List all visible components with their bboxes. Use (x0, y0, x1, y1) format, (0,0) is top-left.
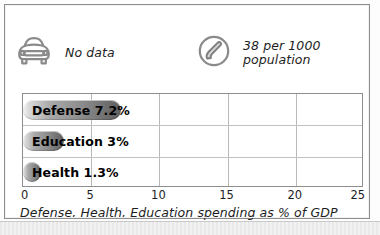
chart-caption: Defense, Health, Education spending as %… (20, 205, 365, 220)
plot-area: Defense 7.2%Education 3%Health 1.3% (22, 93, 363, 187)
bar-label-health: Health 1.3% (32, 165, 119, 180)
x-tick-label: 10 (151, 188, 166, 202)
bar-row: Education 3% (23, 125, 364, 156)
bar-row: Defense 7.2% (23, 94, 364, 125)
content-panel: No data 38 per 1000 population Defense 7… (4, 4, 370, 219)
indicator-telephone-label: 38 per 1000 population (243, 39, 321, 67)
car-icon (14, 34, 54, 72)
bar-label-education: Education 3% (32, 134, 129, 149)
page-scan-band (0, 222, 380, 235)
x-tick-label: 25 (351, 188, 366, 202)
indicator-car: No data (14, 34, 196, 72)
telephone-icon (196, 33, 232, 73)
x-tick-label: 15 (219, 188, 234, 202)
x-tick-label: 0 (21, 188, 28, 202)
indicator-car-label: No data (65, 46, 115, 60)
x-tick-label: 20 (287, 188, 302, 202)
x-tick-label: 5 (87, 188, 94, 202)
indicator-telephone: 38 per 1000 population (196, 33, 362, 73)
bar-label-defense: Defense 7.2% (32, 103, 130, 118)
indicator-legend: No data 38 per 1000 population (14, 27, 362, 79)
bar-row: Health 1.3% (23, 157, 364, 188)
spending-bar-chart: Defense 7.2%Education 3%Health 1.3% (22, 93, 363, 187)
infographic-panel: No data 38 per 1000 population Defense 7… (0, 0, 380, 235)
x-axis: 0510152025 (22, 188, 363, 204)
